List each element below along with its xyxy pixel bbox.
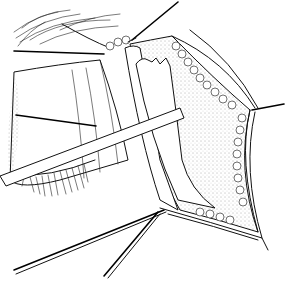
upper-traction-suture — [14, 51, 104, 54]
eyebrow-hair — [14, 10, 120, 48]
top-traction-suture — [132, 2, 178, 40]
lower-traction-suture-1 — [14, 210, 164, 270]
lower-traction-suture-2 — [104, 212, 158, 276]
surgical-illustration — [0, 0, 288, 293]
